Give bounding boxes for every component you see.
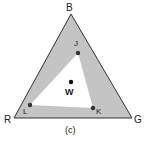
caption: (c) — [65, 125, 76, 135]
point-l — [28, 103, 32, 107]
label-k: K — [96, 107, 102, 116]
label-g: G — [134, 114, 142, 125]
point-j — [76, 51, 80, 55]
color-triangle-diagram: B R G J K L W (c) — [0, 0, 146, 146]
label-j: J — [74, 39, 78, 48]
label-w: W — [65, 87, 74, 97]
white-point — [69, 80, 73, 84]
label-b: B — [66, 2, 73, 13]
label-l: L — [23, 107, 28, 116]
label-r: R — [4, 114, 11, 125]
point-k — [91, 106, 95, 110]
